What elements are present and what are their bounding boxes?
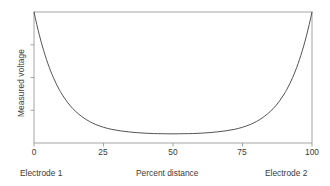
electrode-2-label: Electrode 2 [265,168,307,179]
x-tick-label-25: 25 [93,147,113,157]
plot-frame [34,12,312,143]
y-axis-label-wrapper: Measured voltage [14,18,28,148]
y-axis-ticks [31,45,35,111]
y-axis-label: Measured voltage [14,18,28,148]
x-tick-label-50: 50 [163,147,183,157]
electrode-1-label: Electrode 1 [20,168,62,179]
x-tick-label-75: 75 [232,147,252,157]
voltage-curve [34,12,312,134]
x-tick-label-100: 100 [300,147,324,157]
chart-plot-area [0,0,330,186]
chart-figure: Measured voltage 0 25 50 75 100 Electrod… [0,0,330,186]
x-tick-label-0: 0 [24,147,44,157]
x-axis-title: Percent distance [136,168,198,179]
x-axis-ticks [34,143,312,147]
